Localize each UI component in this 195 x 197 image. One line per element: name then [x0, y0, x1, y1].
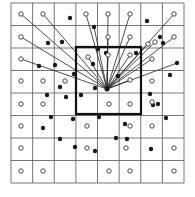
hollow-circle — [107, 102, 111, 106]
filled-dot — [164, 116, 168, 120]
filled-dot — [161, 41, 165, 45]
filled-dot — [114, 136, 118, 140]
hollow-circle — [150, 57, 154, 61]
hollow-circle — [128, 102, 132, 106]
filled-dot — [60, 40, 64, 44]
hollow-circle — [41, 102, 45, 106]
hollow-circle — [106, 12, 110, 16]
hollow-circle — [128, 169, 132, 173]
filled-dot — [91, 62, 95, 66]
hollow-circle — [84, 12, 88, 16]
hollow-circle — [106, 35, 110, 39]
filled-dot — [168, 73, 172, 77]
filled-dot — [116, 74, 120, 78]
filled-dot — [64, 95, 68, 99]
hollow-circle — [85, 124, 89, 128]
filled-dot — [71, 117, 75, 121]
hollow-circle — [41, 12, 45, 16]
connection-line — [107, 55, 130, 89]
hollow-circle — [128, 12, 132, 16]
filled-dot — [46, 41, 50, 45]
filled-dot — [134, 51, 138, 55]
hollow-circle — [63, 79, 67, 83]
filled-dot — [123, 122, 127, 126]
filled-dot — [175, 61, 179, 65]
hollow-circle — [19, 102, 23, 106]
hollow-circle — [150, 79, 154, 83]
filled-dot — [96, 47, 100, 51]
hollow-circle — [172, 146, 176, 150]
filled-dot — [97, 115, 101, 119]
hollow-circle — [153, 40, 157, 44]
filled-dot — [145, 19, 149, 23]
filled-dot — [45, 93, 49, 97]
filled-dot — [149, 147, 153, 151]
hollow-circle — [172, 12, 176, 16]
filled-dot — [49, 115, 53, 119]
hollow-circle — [107, 169, 111, 173]
filled-dot — [72, 72, 76, 76]
filled-dot — [158, 35, 162, 39]
hollow-circle — [19, 79, 23, 83]
hollow-circle — [41, 79, 45, 83]
filled-dot — [156, 102, 160, 106]
hollow-circle — [106, 53, 110, 57]
hollow-circle — [128, 124, 132, 128]
filled-dot — [68, 16, 72, 20]
filled-dot — [37, 64, 41, 68]
hollow-circle — [19, 35, 23, 39]
hollow-circle — [86, 55, 90, 59]
hollow-circle — [146, 42, 150, 46]
hollow-circle — [172, 169, 176, 173]
filled-dot — [93, 86, 97, 90]
filled-dot — [58, 137, 62, 141]
filled-dot — [79, 93, 83, 97]
hollow-circle — [19, 57, 23, 61]
hollow-circle — [128, 78, 132, 82]
hollow-circle — [19, 146, 23, 150]
hollow-circle — [124, 146, 128, 150]
filled-dot — [148, 92, 152, 96]
filled-dot — [93, 149, 97, 153]
hollow-circle — [19, 12, 23, 16]
filled-dot — [41, 126, 45, 130]
hollow-circle — [172, 35, 176, 39]
filled-dot — [73, 145, 77, 149]
hollow-circle — [19, 169, 23, 173]
sampling-grid-diagram — [0, 0, 195, 197]
hollow-circle — [19, 124, 23, 128]
filled-dot — [125, 137, 129, 141]
hollow-circle — [150, 100, 154, 104]
hollow-circle — [128, 35, 132, 39]
filled-dot — [92, 25, 96, 29]
hollow-circle — [85, 146, 89, 150]
grid-lines — [11, 3, 184, 183]
filled-dot — [58, 85, 62, 89]
hollow-circle — [150, 124, 154, 128]
center-point — [105, 87, 110, 92]
filled-dot — [53, 63, 57, 67]
hollow-circle — [41, 169, 45, 173]
hollow-circle — [128, 53, 132, 57]
